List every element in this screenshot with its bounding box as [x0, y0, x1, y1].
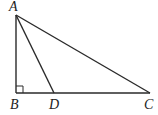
label-d: D	[48, 97, 59, 112]
label-a: A	[8, 0, 18, 14]
label-c: C	[144, 97, 154, 112]
segment-ac	[16, 15, 150, 93]
triangle-diagram: A B D C	[0, 0, 158, 115]
right-angle-marker	[16, 86, 23, 93]
label-b: B	[10, 97, 19, 112]
